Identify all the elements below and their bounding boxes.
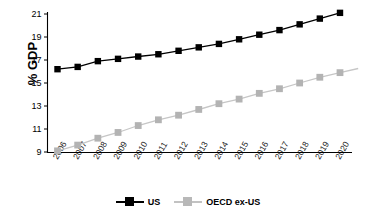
y-tick-label: 19 xyxy=(31,32,41,42)
data-point-marker[interactable] xyxy=(236,36,242,42)
y-tick-label: 21 xyxy=(31,9,41,19)
data-point-marker[interactable] xyxy=(276,27,282,33)
legend-entry-oecd-ex-us[interactable]: OECD ex-US xyxy=(174,196,260,207)
data-point-marker[interactable] xyxy=(135,53,141,59)
data-point-marker[interactable] xyxy=(196,44,202,50)
data-point-marker[interactable] xyxy=(296,80,303,87)
data-point-marker[interactable] xyxy=(256,90,263,97)
chart-legend: US OECD ex-US xyxy=(0,196,376,207)
y-tick-label: 17 xyxy=(31,55,41,65)
legend-label-us: US xyxy=(148,197,161,207)
legend-swatch-oecd-ex-us xyxy=(174,196,202,207)
data-point-marker[interactable] xyxy=(175,112,182,119)
data-point-marker[interactable] xyxy=(316,74,323,81)
x-tick-label: 2018 xyxy=(293,139,311,161)
y-tick-label: 13 xyxy=(31,101,41,111)
data-point-marker[interactable] xyxy=(337,10,343,16)
data-point-marker[interactable] xyxy=(195,106,202,113)
data-point-marker[interactable] xyxy=(135,122,142,129)
legend-label-oecd-ex-us: OECD ex-US xyxy=(206,197,260,207)
plot-area: 9111315171921 20062007200820092010201120… xyxy=(0,0,376,219)
data-point-marker[interactable] xyxy=(74,64,80,70)
data-point-marker[interactable] xyxy=(94,135,101,142)
legend-entry-us[interactable]: US xyxy=(116,196,161,207)
y-axis-ticks: 9111315171921 xyxy=(31,9,47,157)
x-tick-label: 2019 xyxy=(313,139,331,161)
legend-marker-oecd-ex-us xyxy=(183,197,192,206)
legend-marker-us xyxy=(125,197,134,206)
y-tick-label: 15 xyxy=(31,78,41,88)
data-point-marker[interactable] xyxy=(296,21,302,27)
data-point-marker[interactable] xyxy=(54,147,61,154)
data-point-marker[interactable] xyxy=(256,32,262,38)
x-tick-label: 2015 xyxy=(232,139,250,161)
data-point-marker[interactable] xyxy=(115,129,122,136)
data-point-marker[interactable] xyxy=(236,96,243,103)
data-point-marker[interactable] xyxy=(155,51,161,57)
x-tick-label: 2020 xyxy=(333,139,351,161)
x-tick-label: 2017 xyxy=(273,139,291,161)
data-point-marker[interactable] xyxy=(54,66,60,72)
data-point-marker[interactable] xyxy=(337,69,344,76)
series-layer xyxy=(54,10,358,155)
x-tick-label: 2012 xyxy=(172,139,190,161)
data-point-marker[interactable] xyxy=(216,41,222,47)
data-point-marker[interactable] xyxy=(216,100,223,107)
x-tick-label: 2014 xyxy=(212,139,230,161)
data-point-marker[interactable] xyxy=(155,116,162,123)
x-tick-label: 2008 xyxy=(91,139,109,161)
y-tick-label: 9 xyxy=(36,147,41,157)
x-axis-ticks: 2006200720082009201020112012201320142015… xyxy=(51,139,352,161)
legend-swatch-us xyxy=(116,196,144,207)
data-point-marker[interactable] xyxy=(317,15,323,21)
x-tick-label: 2010 xyxy=(131,139,149,161)
data-point-marker[interactable] xyxy=(74,142,81,149)
data-point-marker[interactable] xyxy=(175,48,181,54)
chart-container: % GDP 9111315171921 20062007200820092010… xyxy=(0,0,376,219)
x-tick-label: 2009 xyxy=(111,139,129,161)
x-tick-label: 2013 xyxy=(192,139,210,161)
series-line-oecd-ex-us xyxy=(58,69,359,151)
x-tick-label: 2016 xyxy=(252,139,270,161)
data-point-marker[interactable] xyxy=(276,85,283,92)
y-tick-label: 11 xyxy=(32,124,41,134)
x-tick-label: 2011 xyxy=(151,140,169,161)
data-point-marker[interactable] xyxy=(95,58,101,64)
data-point-marker[interactable] xyxy=(115,56,121,62)
